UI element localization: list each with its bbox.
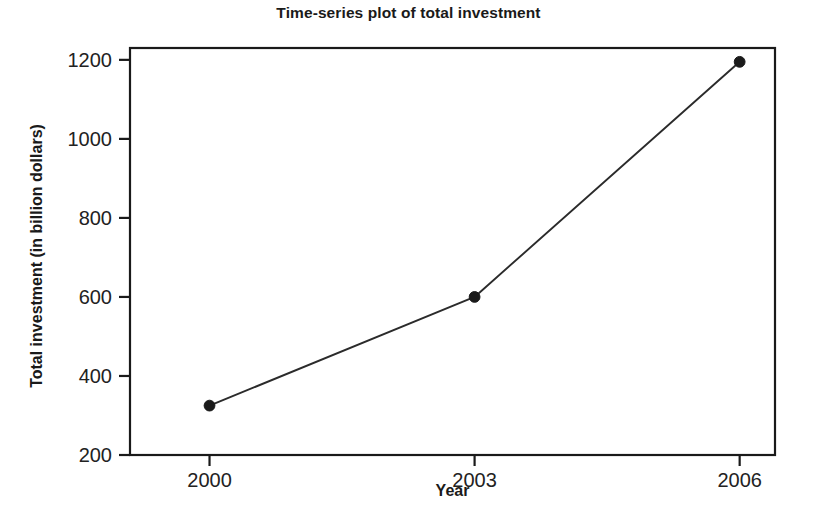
y-tick-label: 800 [79,207,112,229]
x-tick-label: 2003 [452,469,497,491]
plot-area: 20040060080010001200 200020032006 [0,0,817,509]
y-tick-label: 600 [79,286,112,308]
x-tick-group: 200020032006 [187,455,762,491]
y-tick-label: 400 [79,365,112,387]
plot-frame [130,48,775,455]
chart-page: Time-series plot of total investment Tot… [0,0,817,509]
data-point-marker [204,400,215,411]
data-point-marker [734,56,745,67]
y-tick-label: 1200 [68,49,113,71]
data-point-marker [469,292,480,303]
y-tick-group: 20040060080010001200 [68,49,131,466]
y-tick-label: 1000 [68,128,113,150]
x-tick-label: 2006 [717,469,762,491]
x-tick-label: 2000 [187,469,232,491]
y-tick-label: 200 [79,444,112,466]
